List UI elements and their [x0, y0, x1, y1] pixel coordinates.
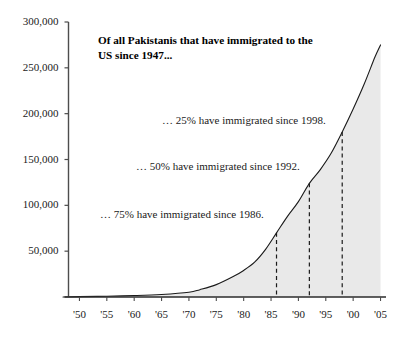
chart-title: Of all Pakistanis that have immigrated t… — [98, 33, 328, 63]
y-tick-label: 50,000 — [0, 245, 59, 256]
y-tick-label: 100,000 — [0, 199, 59, 210]
y-tick-label: 150,000 — [0, 154, 59, 165]
y-tick-label: 250,000 — [0, 62, 59, 73]
annotation-75-percent: … 75% have immigrated since 1986. — [100, 209, 264, 220]
annotation-50-percent: … 50% have immigrated since 1992. — [136, 161, 300, 172]
y-tick-label: 200,000 — [0, 108, 59, 119]
immigration-area-chart: Of all Pakistanis that have immigrated t… — [0, 0, 408, 343]
annotation-25-percent: … 25% have immigrated since 1998. — [162, 115, 326, 126]
x-tick-label: '05 — [364, 309, 398, 320]
y-tick-label: 300,000 — [0, 16, 59, 27]
